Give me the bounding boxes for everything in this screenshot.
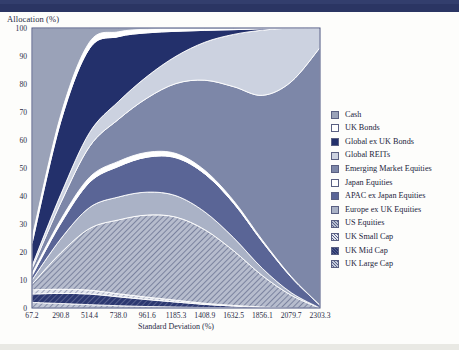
legend-item[interactable]: UK Small Cap	[331, 230, 457, 244]
x-tick-label: 1632.5	[223, 311, 244, 320]
x-tick-label: 290.8	[52, 311, 69, 320]
legend-swatch-icon	[331, 260, 339, 268]
legend-item[interactable]: Global ex UK Bonds	[331, 135, 457, 149]
legend-label: Global ex UK Bonds	[345, 138, 414, 146]
chart-legend: CashUK BondsGlobal ex UK BondsGlobal REI…	[331, 108, 457, 271]
x-tick-label: 2079.7	[281, 311, 302, 320]
legend-swatch-icon	[331, 124, 339, 132]
legend-item[interactable]: UK Bonds	[331, 122, 457, 136]
legend-label: APAC ex Japan Equities	[345, 192, 425, 200]
x-axis-title: Standard Deviation (%)	[138, 322, 214, 331]
y-tick-label: 70	[19, 108, 27, 117]
legend-item[interactable]: Emerging Market Equities	[331, 162, 457, 176]
y-tick-label: 20	[19, 248, 27, 257]
x-tick-label: 514.4	[81, 311, 98, 320]
legend-label: Global REITs	[345, 151, 390, 159]
legend-item[interactable]: Global REITs	[331, 149, 457, 163]
legend-swatch-icon	[331, 247, 339, 255]
x-tick-label: 1408.9	[194, 311, 215, 320]
legend-item[interactable]: US Equities	[331, 217, 457, 231]
y-tick-label: 80	[19, 80, 27, 89]
x-tick-label: 738.0	[110, 311, 127, 320]
legend-label: UK Large Cap	[345, 260, 393, 268]
legend-swatch-icon	[331, 220, 339, 228]
legend-swatch-icon	[331, 206, 339, 214]
legend-swatch-icon	[331, 152, 339, 160]
x-tick-label: 961.6	[139, 311, 156, 320]
page-bottom-edge	[0, 344, 459, 350]
y-tick-label: 50	[19, 164, 27, 173]
x-tick-label: 1185.3	[166, 311, 187, 320]
legend-item[interactable]: UK Large Cap	[331, 258, 457, 272]
y-tick-label: 90	[19, 52, 27, 61]
legend-label: UK Small Cap	[345, 233, 393, 241]
legend-swatch-icon	[331, 233, 339, 241]
legend-label: Europe ex UK Equities	[345, 206, 421, 214]
y-tick-label: 30	[19, 220, 27, 229]
y-tick-label: 40	[19, 192, 27, 201]
legend-item[interactable]: Japan Equities	[331, 176, 457, 190]
y-tick-label: 100	[16, 24, 28, 33]
x-axis-ticks: 67.2290.8514.4738.0961.61185.31408.91632…	[25, 311, 330, 320]
legend-item[interactable]: UK Mid Cap	[331, 244, 457, 258]
legend-label: Cash	[345, 111, 361, 119]
x-tick-label: 1856.1	[252, 311, 273, 320]
legend-swatch-icon	[331, 179, 339, 187]
y-tick-label: 10	[19, 276, 27, 285]
legend-swatch-icon	[331, 138, 339, 146]
legend-label: UK Bonds	[345, 124, 380, 132]
stacked-areas	[32, 28, 320, 308]
legend-item[interactable]: Europe ex UK Equities	[331, 203, 457, 217]
legend-label: Emerging Market Equities	[345, 165, 432, 173]
x-tick-label: 2303.3	[310, 311, 331, 320]
y-tick-label: 60	[19, 136, 27, 145]
legend-swatch-icon	[331, 192, 339, 200]
legend-label: Japan Equities	[345, 179, 393, 187]
legend-swatch-icon	[331, 111, 339, 119]
legend-label: UK Mid Cap	[345, 247, 388, 255]
x-tick-label: 67.2	[25, 311, 38, 320]
legend-item[interactable]: APAC ex Japan Equities	[331, 190, 457, 204]
y-axis-ticks: 0102030405060708090100	[16, 24, 28, 313]
legend-swatch-icon	[331, 165, 339, 173]
legend-item[interactable]: Cash	[331, 108, 457, 122]
legend-label: US Equities	[345, 219, 384, 227]
